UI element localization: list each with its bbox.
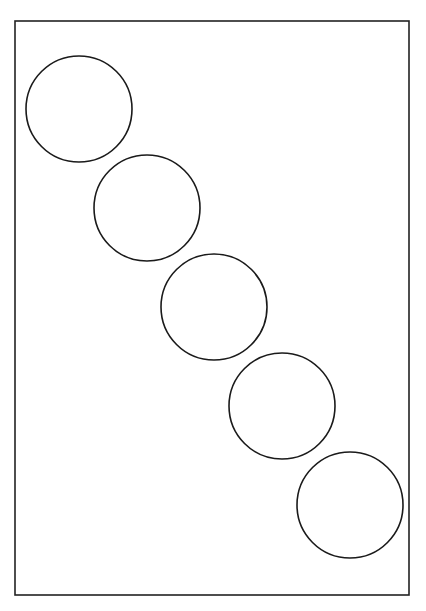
page-frame — [15, 21, 409, 595]
diagram-canvas — [0, 0, 426, 611]
circle-3 — [161, 254, 267, 360]
circle-2 — [94, 155, 200, 261]
circle-4 — [229, 353, 335, 459]
circle-1 — [26, 56, 132, 162]
circle-5 — [297, 452, 403, 558]
circle-group — [26, 56, 403, 558]
